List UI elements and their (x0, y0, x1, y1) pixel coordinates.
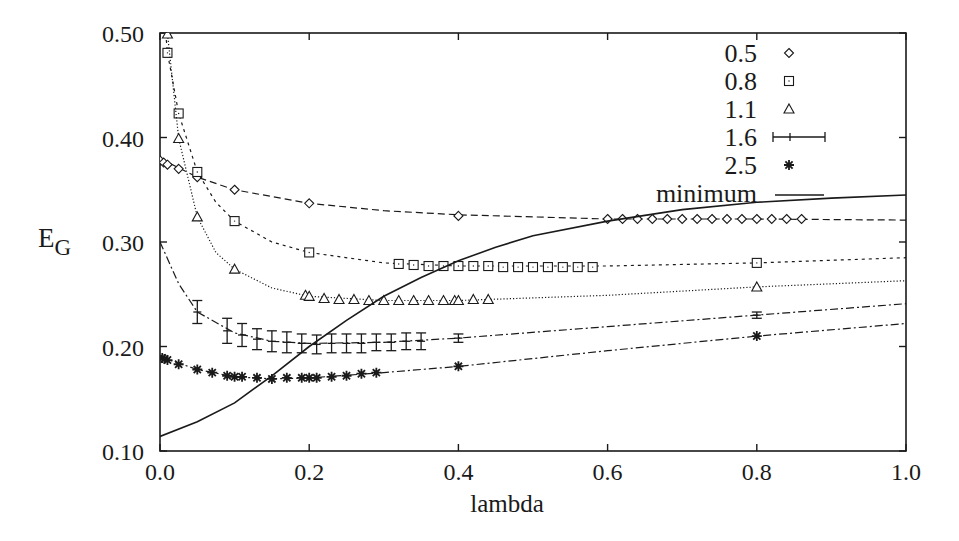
diamond-point (708, 215, 717, 224)
diamond-point (767, 215, 776, 224)
star-point (282, 373, 292, 383)
diamond-point (230, 185, 239, 194)
square-point (529, 263, 538, 272)
series-1-1 (162, 12, 906, 304)
legend-entry-0-5: 0.5 (725, 39, 794, 68)
square-point (409, 260, 418, 269)
fit-curve (160, 158, 906, 220)
star-point (192, 364, 202, 374)
fit-curve (166, 12, 906, 300)
triangle-point (192, 212, 202, 221)
legend-entry-1-6: 1.6 (725, 123, 826, 152)
errorbar-point (267, 331, 277, 352)
triangle-point (174, 134, 184, 143)
chart: 0.00.20.40.60.81.00.100.200.300.400.50 0… (0, 0, 959, 541)
y-axis-label: EG (38, 223, 71, 260)
square-point (543, 263, 552, 272)
legend-square-icon (785, 77, 794, 86)
legend-entry-1-1: 1.1 (725, 95, 795, 124)
square-point (305, 248, 314, 257)
star-point (356, 369, 366, 379)
star-point (342, 371, 352, 381)
errorbar-point (192, 301, 202, 324)
diamond-point (454, 211, 463, 220)
y-tick-label: 0.50 (102, 21, 144, 47)
legend-label: 1.1 (725, 95, 758, 124)
square-point (752, 258, 761, 267)
legend-triangle-icon (784, 104, 794, 113)
series-0-5 (156, 156, 907, 224)
square-point (193, 167, 202, 176)
square-point (394, 259, 403, 268)
star-point (207, 368, 217, 378)
square-point (588, 263, 597, 272)
diamond-point (782, 215, 791, 224)
legend-label: 2.5 (725, 151, 758, 180)
triangle-point (752, 282, 762, 291)
legend-label: minimum (656, 179, 757, 208)
diamond-point (663, 215, 672, 224)
square-point (230, 217, 239, 226)
square-point (469, 262, 478, 271)
legend-diamond-icon (785, 49, 794, 58)
errorbar-point (401, 333, 411, 350)
errorbar-point (416, 333, 426, 350)
diamond-point (752, 215, 761, 224)
legend-errorbar-icon (773, 132, 825, 142)
square-point (499, 263, 508, 272)
star-point (327, 372, 337, 382)
x-tick-label: 0.2 (294, 459, 324, 485)
legend-entry-0-8: 0.8 (725, 67, 794, 96)
diamond-point (737, 215, 746, 224)
errorbar-point (356, 334, 366, 353)
x-tick-label: 1.0 (891, 459, 921, 485)
y-tick-label: 0.20 (102, 335, 144, 361)
triangle-point (334, 294, 344, 303)
star-point (312, 373, 322, 383)
fit-curve (160, 242, 906, 343)
fit-curve (164, 12, 906, 266)
plot-axes: 0.00.20.40.60.81.00.100.200.300.400.50 (102, 21, 921, 485)
errorbar-point (453, 334, 463, 342)
x-tick-label: 0.6 (593, 459, 623, 485)
x-tick-label: 0.4 (443, 459, 473, 485)
star-point (162, 355, 172, 365)
square-point (558, 263, 567, 272)
triangle-point (468, 294, 478, 303)
errorbar-point (282, 332, 292, 353)
x-axis-label: lambda (470, 490, 544, 517)
star-point (752, 331, 762, 341)
legend-label: 1.6 (725, 123, 758, 152)
errorbar-point (342, 334, 352, 353)
diamond-point (693, 215, 702, 224)
star-point (174, 359, 184, 369)
y-tick-label: 0.10 (102, 439, 144, 465)
minimum-curve (160, 195, 906, 436)
diamond-point (305, 199, 314, 208)
errorbar-point (752, 312, 762, 318)
triangle-point (230, 264, 240, 273)
legend: 0.50.81.11.62.5minimum (656, 39, 825, 208)
y-tick-label: 0.30 (102, 230, 144, 256)
x-tick-label: 0.0 (145, 459, 175, 485)
star-point (237, 372, 247, 382)
square-point (424, 262, 433, 271)
square-point (514, 263, 523, 272)
star-point (252, 373, 262, 383)
errorbar-point (222, 318, 232, 343)
x-tick-label: 0.8 (742, 459, 772, 485)
square-point (163, 48, 172, 57)
y-tick-label: 0.40 (102, 126, 144, 152)
diamond-point (722, 215, 731, 224)
square-point (174, 109, 183, 118)
errorbar-point (327, 334, 337, 353)
errorbar-point (237, 324, 247, 347)
legend-entry-2-5: 2.5 (725, 151, 795, 180)
errorbar-point (252, 329, 262, 350)
series-0-8 (163, 12, 906, 271)
diamond-point (678, 215, 687, 224)
star-point (222, 371, 232, 381)
square-point (484, 262, 493, 271)
star-point (453, 361, 463, 371)
y-axis-label-subscript: G (55, 235, 72, 260)
